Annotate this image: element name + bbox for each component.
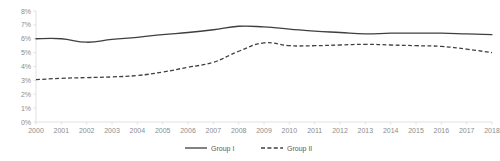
y-axis-tick-label: 3% bbox=[21, 77, 31, 84]
x-axis-tick-label: 2001 bbox=[54, 127, 70, 134]
y-axis-tick-label: 2% bbox=[21, 91, 31, 98]
x-axis-tick-label: 2009 bbox=[256, 127, 272, 134]
x-axis-tick-label: 2000 bbox=[28, 127, 44, 134]
x-axis-tick-label: 2004 bbox=[130, 127, 146, 134]
legend-label-group-ii: Group II bbox=[287, 145, 312, 153]
y-axis-tick-label: 6% bbox=[21, 35, 31, 42]
x-axis-tick-label: 2012 bbox=[332, 127, 348, 134]
x-axis-tick-label: 2017 bbox=[459, 127, 475, 134]
x-axis-tick-label: 2016 bbox=[434, 127, 450, 134]
series-line-group-i bbox=[36, 26, 492, 42]
x-axis-tick-label: 2018 bbox=[484, 127, 500, 134]
x-axis-tick-label: 2003 bbox=[104, 127, 120, 134]
x-axis-tick-label: 2006 bbox=[180, 127, 196, 134]
y-axis-tick-label: 1% bbox=[21, 105, 31, 112]
chart-canvas: 0%1%2%3%4%5%6%7%8% 200020012002200320042… bbox=[0, 0, 500, 161]
x-axis-tick-label: 2002 bbox=[79, 127, 95, 134]
x-axis-tick-label: 2011 bbox=[307, 127, 322, 134]
x-axis-tick-label: 2005 bbox=[155, 127, 171, 134]
x-axis-tick-label: 2007 bbox=[206, 127, 222, 134]
series-line-group-ii bbox=[36, 43, 492, 80]
chart-legend: Group I Group II bbox=[185, 145, 312, 153]
y-axis-tick-label: 8% bbox=[21, 8, 31, 15]
x-axis-tick-label: 2008 bbox=[231, 127, 247, 134]
x-axis-tick-label: 2013 bbox=[358, 127, 374, 134]
y-axis-tick-label: 7% bbox=[21, 21, 31, 28]
x-axis-tick-label: 2014 bbox=[383, 127, 399, 134]
x-axis-tick-labels: 2000200120022003200420052006200720082009… bbox=[28, 127, 500, 134]
legend-label-group-i: Group I bbox=[211, 145, 234, 153]
y-axis-tick-label: 5% bbox=[21, 49, 31, 56]
line-chart: 0%1%2%3%4%5%6%7%8% 200020012002200320042… bbox=[0, 0, 500, 161]
x-axis-tick-label: 2010 bbox=[282, 127, 298, 134]
x-axis-tick-label: 2015 bbox=[408, 127, 424, 134]
y-axis-tick-label: 4% bbox=[21, 63, 31, 70]
y-axis-tick-labels: 0%1%2%3%4%5%6%7%8% bbox=[21, 8, 31, 126]
y-axis-tick-label: 0% bbox=[21, 119, 31, 126]
